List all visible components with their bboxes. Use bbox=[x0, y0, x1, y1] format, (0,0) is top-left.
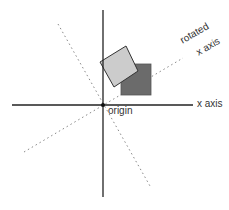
diagram-canvas: x axis origin rotated x axis bbox=[0, 0, 229, 210]
x-axis-label: x axis bbox=[197, 98, 223, 109]
origin-label: origin bbox=[108, 105, 132, 116]
origin-dot bbox=[101, 103, 105, 107]
